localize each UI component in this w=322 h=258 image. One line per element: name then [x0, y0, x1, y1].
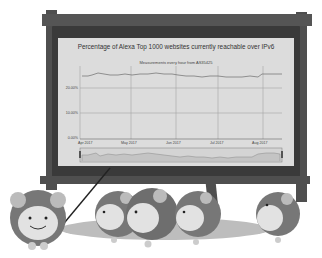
bee-character-5: [256, 192, 300, 243]
bee-character-4: [175, 191, 221, 245]
navigator-handle-right: [281, 151, 283, 158]
bee-character-teacher: [10, 190, 66, 250]
series-line: [82, 73, 282, 77]
bee-character-3: [126, 188, 178, 248]
chart-plot: [0, 0, 322, 258]
navigator-handle-left: [79, 151, 81, 158]
illustration-scene: Percentage of Alexa Top 1000 websites cu…: [0, 0, 322, 258]
